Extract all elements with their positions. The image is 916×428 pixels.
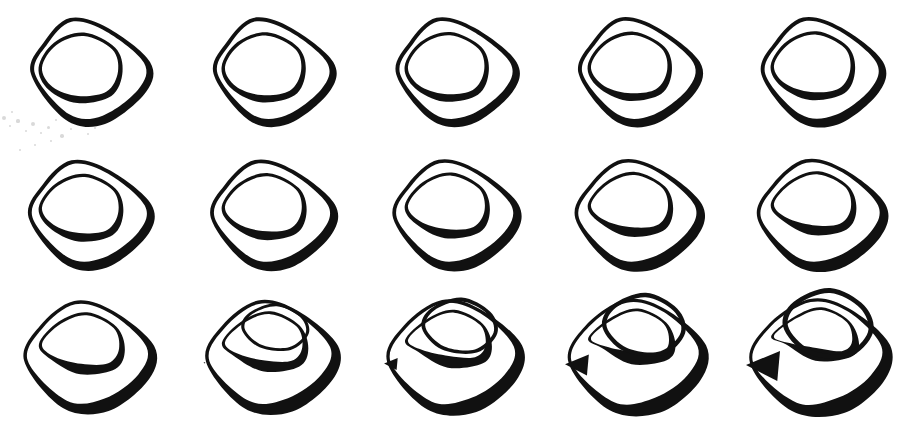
frame-1-2 (183, 0, 366, 143)
frame-2-5 (732, 143, 915, 286)
frame-3-3 (366, 285, 549, 428)
frame-2-4 (549, 143, 732, 286)
ribbon-shape (366, 143, 549, 286)
ribbon-shape (549, 285, 732, 428)
frame-3-2 (183, 285, 366, 428)
ribbon-shape (549, 143, 732, 286)
frame-3-4 (549, 285, 732, 428)
ribbon-shape (366, 285, 549, 428)
ribbon-shape (0, 285, 183, 428)
frame-2-1 (0, 143, 183, 286)
frame-1-3 (366, 0, 549, 143)
frame-1-5 (732, 0, 915, 143)
frame-1-1 (0, 0, 183, 143)
frame-3-1 (0, 285, 183, 428)
frame-3-5 (732, 285, 915, 428)
ribbon-shape (0, 143, 183, 286)
ribbon-shape (732, 285, 915, 428)
cusp-wedge (203, 362, 205, 364)
frame-2-3 (366, 143, 549, 286)
frame-1-4 (549, 0, 732, 143)
ribbon-shape (183, 285, 366, 428)
figure-grid (0, 0, 916, 428)
ribbon-shape (732, 143, 915, 286)
ribbon-shape (549, 0, 732, 143)
ribbon-shape (366, 0, 549, 143)
ribbon-shape (0, 0, 183, 143)
ribbon-shape (183, 143, 366, 286)
frame-2-2 (183, 143, 366, 286)
ribbon-shape (183, 0, 366, 143)
ribbon-shape (732, 0, 915, 143)
